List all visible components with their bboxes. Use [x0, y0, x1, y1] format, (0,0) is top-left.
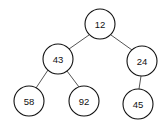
tree-node-24: 24: [127, 46, 157, 76]
tree-node-43: 43: [43, 44, 73, 74]
node-label: 12: [95, 19, 106, 30]
tree-node-92: 92: [69, 86, 99, 116]
tree-diagram: 12 43 24 58 92 45: [0, 0, 168, 125]
edge-24-45: [139, 76, 141, 89]
node-label: 92: [79, 96, 90, 107]
tree-node-58: 58: [14, 86, 44, 116]
node-label: 24: [137, 56, 148, 67]
tree-node-45: 45: [123, 89, 153, 119]
node-label: 45: [133, 99, 144, 110]
node-label: 43: [53, 54, 64, 65]
tree-node-12: 12: [85, 9, 115, 39]
edge-43-92: [67, 71, 79, 87]
edge-43-58: [36, 70, 48, 88]
edge-12-43: [69, 35, 89, 49]
node-label: 58: [24, 96, 35, 107]
edge-12-24: [111, 35, 132, 50]
